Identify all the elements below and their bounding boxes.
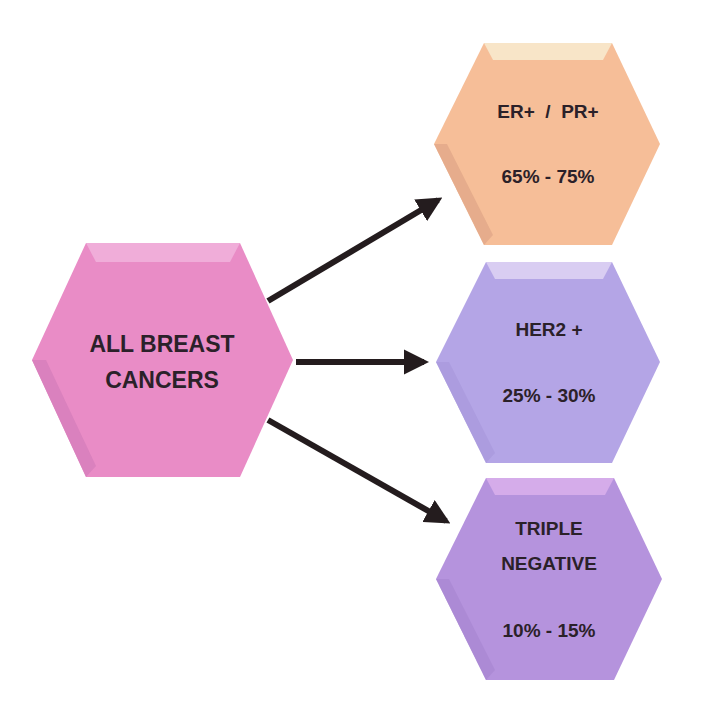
breast-cancer-subtype-diagram: ALL BREAST CANCERS ER+ / PR+ 65% - 75% H… bbox=[0, 0, 701, 722]
arrow-to-triple-negative bbox=[268, 420, 446, 521]
hexagon-her2-positive: HER2 + 25% - 30% bbox=[436, 262, 660, 463]
subtype-label: ER+ / PR+ bbox=[497, 101, 598, 122]
hexagon-top-bevel bbox=[86, 243, 240, 262]
hexagon-all-breast-cancers: ALL BREAST CANCERS bbox=[32, 243, 293, 477]
hexagon-body bbox=[436, 478, 662, 680]
arrows bbox=[268, 200, 446, 521]
subtype-percentage: 25% - 30% bbox=[503, 385, 596, 406]
subtype-percentage: 65% - 75% bbox=[502, 166, 595, 187]
subtype-percentage: 10% - 15% bbox=[503, 620, 596, 641]
hexagon-er-pr-positive: ER+ / PR+ 65% - 75% bbox=[434, 43, 660, 245]
source-label-line-2: CANCERS bbox=[105, 367, 219, 393]
hexagon-top-bevel bbox=[484, 43, 612, 60]
hexagon-body bbox=[434, 43, 660, 245]
subtype-label-line-1: TRIPLE bbox=[515, 518, 583, 539]
hexagon-top-bevel bbox=[486, 262, 612, 279]
hexagon-top-bevel bbox=[486, 478, 614, 495]
hexagon-body bbox=[436, 262, 660, 463]
arrow-to-er-pr bbox=[268, 200, 438, 301]
hexagon-triple-negative: TRIPLE NEGATIVE 10% - 15% bbox=[436, 478, 662, 680]
subtype-label: HER2 + bbox=[515, 319, 582, 340]
source-label-line-1: ALL BREAST bbox=[89, 331, 234, 357]
subtype-label-line-2: NEGATIVE bbox=[501, 553, 597, 574]
